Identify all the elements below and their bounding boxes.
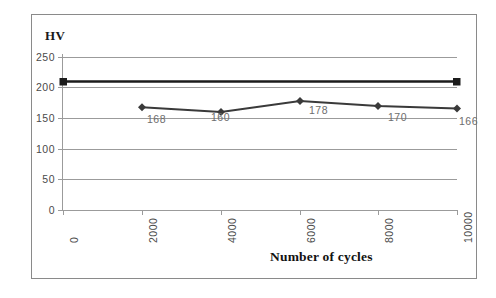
x-tick-mark-6000: [300, 210, 301, 215]
y-tick-mark-200: [58, 87, 63, 88]
x-tick-mark-0: [63, 210, 64, 215]
y-tick-mark-50: [58, 179, 63, 180]
x-tick-label-10000: 10000: [462, 211, 474, 243]
x-tick-label-2000: 2000: [147, 218, 159, 243]
x-tick-label-4000: 4000: [226, 218, 238, 243]
y-tick-label-100: 100: [5, 143, 55, 155]
y-tick-mark-250: [58, 57, 63, 58]
y-tick-label-250: 250: [5, 51, 55, 63]
gridline-200: [63, 87, 457, 88]
x-tick-label-8000: 8000: [383, 218, 395, 243]
y-tick-mark-150: [58, 118, 63, 119]
data-label-168: 168: [147, 113, 166, 125]
x-tick-mark-8000: [378, 210, 379, 215]
y-tick-label-200: 200: [5, 81, 55, 93]
y-tick-label-0: 0: [5, 204, 55, 216]
x-axis-line: [62, 210, 458, 211]
y-tick-mark-100: [58, 149, 63, 150]
data-label-178: 178: [309, 104, 328, 116]
y-axis-line: [62, 54, 63, 210]
chart-figure: HV 250 200 150 100 50 0 0 2000 4000 6000…: [0, 0, 496, 298]
data-label-166: 166: [459, 115, 478, 127]
y-tick-label-50: 50: [5, 173, 55, 185]
gridline-50: [63, 179, 457, 180]
x-axis-title: Number of cycles: [270, 249, 373, 265]
x-tick-label-0: 0: [68, 237, 80, 243]
chart-plot-frame: [31, 14, 477, 279]
gridline-100: [63, 149, 457, 150]
x-tick-label-6000: 6000: [305, 218, 317, 243]
data-label-170: 170: [388, 111, 407, 123]
x-tick-mark-2000: [142, 210, 143, 215]
data-label-160: 160: [211, 111, 230, 123]
gridline-250: [63, 57, 457, 58]
y-axis-title: HV: [45, 28, 66, 44]
x-tick-mark-4000: [221, 210, 222, 215]
y-tick-label-150: 150: [5, 112, 55, 124]
x-tick-mark-10000: [457, 210, 458, 215]
